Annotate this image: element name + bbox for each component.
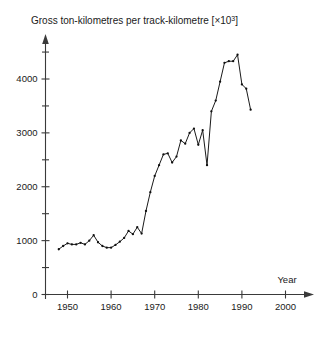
line-chart: Gross ton-kilometres per track-kilometre… <box>0 0 324 337</box>
data-point <box>97 241 99 243</box>
data-point <box>184 143 186 145</box>
data-point <box>193 127 195 129</box>
data-point <box>123 237 125 239</box>
data-point <box>114 244 116 246</box>
data-point <box>58 248 60 250</box>
y-tick-label: 4000 <box>16 73 37 84</box>
data-point <box>197 144 199 146</box>
data-point <box>79 242 81 244</box>
data-point <box>162 153 164 155</box>
data-point <box>75 243 77 245</box>
data-point <box>232 60 234 62</box>
data-point <box>110 246 112 248</box>
data-point <box>210 110 212 112</box>
data-point <box>188 132 190 134</box>
x-tick-label: 2000 <box>275 301 296 312</box>
data-point <box>228 60 230 62</box>
data-point <box>132 233 134 235</box>
data-point <box>149 191 151 193</box>
data-point <box>88 239 90 241</box>
data-point <box>180 139 182 141</box>
data-point <box>249 109 251 111</box>
data-point <box>236 54 238 56</box>
data-point <box>106 246 108 248</box>
y-tick-label: 0 <box>32 289 37 300</box>
data-point <box>175 155 177 157</box>
data-point <box>119 241 121 243</box>
chart-title: Gross ton-kilometres per track-kilometre… <box>31 15 238 27</box>
data-point <box>136 226 138 228</box>
data-point <box>167 152 169 154</box>
data-point <box>93 234 95 236</box>
data-point <box>127 230 129 232</box>
x-tick-group: 195019601970198019902000 <box>57 291 296 312</box>
data-point <box>206 164 208 166</box>
y-tick-label: 2000 <box>16 181 37 192</box>
y-tick-label: 1000 <box>16 235 37 246</box>
x-tick-label: 1980 <box>188 301 209 312</box>
chart-container: Gross ton-kilometres per track-kilometre… <box>0 0 324 337</box>
data-point <box>154 175 156 177</box>
data-point <box>219 81 221 83</box>
data-series-line <box>59 55 251 249</box>
data-point <box>215 99 217 101</box>
x-axis-arrowhead <box>304 291 314 298</box>
x-tick-label: 1950 <box>57 301 78 312</box>
data-point <box>171 161 173 163</box>
data-point <box>140 232 142 234</box>
y-tick-label: 3000 <box>16 127 37 138</box>
y-axis <box>42 34 49 299</box>
x-tick-label: 1960 <box>101 301 122 312</box>
x-axis-label: Year <box>277 274 296 285</box>
data-point <box>158 164 160 166</box>
data-point-markers <box>58 54 252 251</box>
data-point <box>101 245 103 247</box>
data-point <box>84 243 86 245</box>
x-axis <box>46 291 315 298</box>
data-point <box>62 245 64 247</box>
data-point <box>241 83 243 85</box>
data-point <box>202 129 204 131</box>
data-point <box>145 210 147 212</box>
data-point <box>66 242 68 244</box>
y-tick-group: 01000200030004000 <box>16 52 49 299</box>
data-point <box>71 243 73 245</box>
data-point <box>223 62 225 64</box>
x-tick-label: 1990 <box>231 301 252 312</box>
x-tick-label: 1970 <box>144 301 165 312</box>
data-point <box>245 88 247 90</box>
y-axis-arrowhead <box>42 34 49 44</box>
